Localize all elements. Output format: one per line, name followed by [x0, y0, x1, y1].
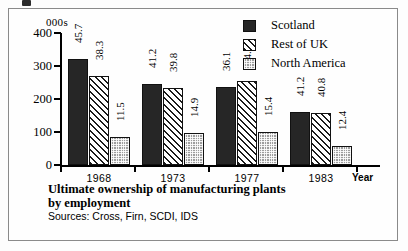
- y-tick: [54, 98, 61, 100]
- legend-swatch-north-america-icon: [243, 58, 256, 70]
- x-axis-title: Year: [352, 172, 373, 183]
- y-tick-label: 200: [16, 92, 52, 107]
- x-tick: [134, 166, 136, 172]
- bar-rest-of-uk-1968: [89, 76, 109, 165]
- figure-sources: Sources: Cross, Firn, SCDI, IDS: [48, 210, 198, 222]
- y-tick-label: 400: [16, 26, 52, 41]
- legend-item-rest-of-uk: Rest of UK: [243, 36, 346, 53]
- bar-rest-of-uk-1983: [311, 113, 331, 165]
- bar-scotland-1968: [68, 59, 88, 165]
- bar-rest-of-uk-1973: [163, 88, 183, 165]
- legend-label-rest-of-uk: Rest of UK: [271, 37, 328, 52]
- figure-root: 000s 0100200300400 1968197319771983 45.7…: [0, 0, 408, 251]
- legend-swatch-rest-of-uk-icon: [243, 39, 256, 51]
- caption-line-2: by employment: [48, 196, 348, 210]
- legend-label-scotland: Scotland: [271, 18, 315, 33]
- x-axis-line: [60, 165, 380, 167]
- bar-rest-of-uk-1977: [237, 81, 257, 165]
- bar-scotland-1977: [216, 87, 236, 165]
- y-axis-line: [60, 33, 62, 167]
- scan-artifact-mark: [22, 0, 31, 6]
- bar-north-america-1983: [332, 146, 352, 165]
- bar-scotland-1983: [290, 112, 310, 165]
- legend-swatch-scotland-icon: [243, 20, 256, 32]
- x-tick: [60, 166, 62, 172]
- y-tick-label: 300: [16, 59, 52, 74]
- x-tick: [208, 166, 210, 172]
- bar-north-america-1977: [258, 132, 278, 165]
- y-tick-label: 100: [16, 125, 52, 140]
- legend-label-north-america: North America: [271, 56, 346, 71]
- y-tick-label: 0: [16, 158, 52, 173]
- bar-scotland-1973: [142, 84, 162, 165]
- y-tick: [54, 32, 61, 34]
- figure-caption: Ultimate ownership of manufacturing plan…: [48, 182, 348, 210]
- bar-north-america-1973: [184, 133, 204, 165]
- y-tick: [54, 131, 61, 133]
- bar-north-america-1968: [110, 137, 130, 165]
- legend-item-scotland: Scotland: [243, 17, 346, 34]
- y-tick: [54, 65, 61, 67]
- caption-line-1: Ultimate ownership of manufacturing plan…: [48, 182, 348, 196]
- chart-legend: Scotland Rest of UK North America: [243, 17, 346, 74]
- x-tick: [282, 166, 284, 172]
- legend-item-north-america: North America: [243, 55, 346, 72]
